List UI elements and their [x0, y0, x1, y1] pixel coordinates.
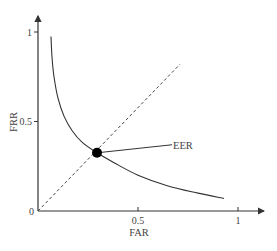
- y-ticks: 0.51: [20, 27, 39, 128]
- x-tick-label: 0.5: [132, 215, 145, 226]
- origin-label: 0: [29, 206, 34, 217]
- x-axis-label: FAR: [129, 227, 149, 238]
- x-ticks: 0.51: [132, 207, 241, 226]
- y-tick-label: 0.5: [20, 116, 33, 127]
- eer-marker: [92, 148, 102, 158]
- y-axis-label: FRR: [8, 112, 19, 132]
- y-tick-label: 1: [27, 27, 32, 38]
- det-chart: 0.51 0.51 0 FAR FRR EER: [0, 0, 277, 251]
- equal-error-diagonal: [38, 64, 180, 211]
- eer-leader-line: [97, 145, 172, 153]
- det-curve: [51, 36, 224, 198]
- x-tick-label: 1: [236, 215, 241, 226]
- eer-label: EER: [173, 140, 193, 151]
